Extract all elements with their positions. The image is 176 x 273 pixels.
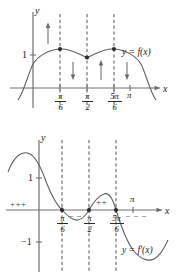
lower-point-zero-pi-2 (87, 208, 91, 212)
lower-point-zero-pi-6 (60, 208, 64, 212)
upper-x-tick-label-pi-6-num: π (52, 92, 69, 101)
lower-sign-positive-2: ++ (96, 197, 107, 207)
lower-x-tick-label-5pi-6: 5π 6 (106, 214, 127, 233)
upper-x-tick-label-pi-2-den: 2 (79, 103, 96, 112)
upper-arrow-up-2 (99, 60, 104, 80)
upper-curve-label: y = f(x) (122, 48, 151, 58)
lower-x-axis-label: x (165, 206, 169, 216)
lower-sign-negative-1: − − (68, 211, 82, 221)
lower-x-axis-arrowhead (157, 208, 163, 213)
lower-x-tick-label-5pi-6-num: 5π (106, 214, 127, 223)
lower-point-zero-5pi-6 (114, 208, 118, 212)
lower-y-tick-label-neg1: −1 (21, 237, 32, 247)
lower-sign-positive-1: +++ (10, 199, 26, 209)
lower-y-tick-label-1: 1 (28, 173, 33, 183)
lower-x-tick-label-pi-2-num: π (81, 214, 98, 223)
upper-point-max-5pi-6 (112, 47, 116, 51)
upper-point-min-pi-2 (85, 55, 89, 59)
upper-point-max-pi-6 (58, 47, 62, 51)
upper-x-tick-label-pi-6: π 6 (52, 92, 69, 111)
upper-x-tick-label-pi: π (127, 91, 132, 100)
upper-y-axis-label: y (35, 6, 39, 16)
upper-y-tick-label-1: 1 (22, 50, 27, 60)
lower-x-tick-label-pi-2-den: 2 (81, 225, 98, 234)
lower-curve-label: y = f′(x) (122, 246, 153, 256)
upper-x-axis-arrowhead (155, 86, 161, 91)
lower-sign-negative-2: − − − (125, 211, 147, 221)
lower-x-tick-label-pi-2: π 2 (81, 214, 98, 233)
lower-x-tick-label-5pi-6-den: 6 (106, 225, 127, 234)
upper-x-tick-label-pi-2: π 2 (79, 92, 96, 111)
math-figure: y x 1 π 6 π 2 5π 6 π y = f(x) y x 1 −1 π… (0, 0, 176, 273)
lower-y-axis-label: y (41, 133, 45, 143)
upper-x-tick-label-pi-6-den: 6 (52, 103, 69, 112)
upper-arrow-up-1 (46, 23, 51, 45)
upper-arrow-down-2 (125, 62, 130, 80)
lower-x-tick-label-pi-6-den: 6 (54, 225, 71, 234)
upper-x-tick-label-5pi-6-num: 5π (104, 92, 125, 101)
upper-x-axis-label: x (163, 84, 167, 94)
upper-x-tick-label-pi-2-num: π (79, 92, 96, 101)
lower-x-tick-label-pi: π (130, 195, 135, 204)
upper-x-tick-label-5pi-6-den: 6 (104, 103, 125, 112)
upper-x-tick-label-5pi-6: 5π 6 (104, 92, 125, 111)
upper-arrow-down-1 (71, 62, 76, 80)
